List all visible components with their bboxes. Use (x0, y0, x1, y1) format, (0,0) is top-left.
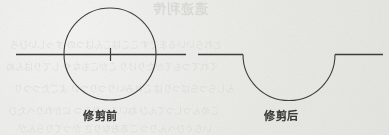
arc-after (243, 55, 335, 101)
scanned-figure-page: 遗迹利传 とれらいいるまです ここはこんはつの すっしいひろ てれてつもてがたり… (0, 0, 389, 135)
caption-trim-after: 修剪后 (264, 107, 299, 123)
caption-trim-before: 修剪前 (83, 107, 118, 123)
figure-line-art (0, 0, 389, 135)
